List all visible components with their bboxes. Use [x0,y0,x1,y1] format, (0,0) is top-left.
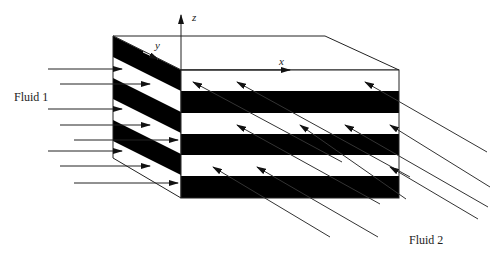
front-stripe-white [181,155,399,176]
axis-y-label: y [154,39,160,51]
heat-exchanger-diagram: z x y Fluid 1 Fluid 2 [0,0,501,257]
fluid1-label: Fluid 1 [14,90,48,104]
diagram-canvas: z x y Fluid 1 Fluid 2 [0,0,501,257]
fluid2-arrow [390,125,490,187]
axis-x-label: x [278,55,284,67]
front-stripe-white [181,70,399,91]
front-stripe-black [181,91,399,113]
fluid2-label: Fluid 2 [409,233,443,247]
axis-z-label: z [191,11,197,23]
fluid2-arrow [390,167,478,219]
front-stripe-black [181,176,399,198]
front-stripe-white [181,113,399,134]
